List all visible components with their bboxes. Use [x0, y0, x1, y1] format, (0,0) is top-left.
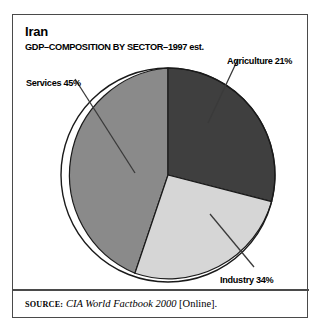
source-note: SOURCE: CIA World Factbook 2000 [Online]…	[25, 298, 217, 309]
slice-label-services: Services 45%	[26, 77, 81, 88]
source-label: SOURCE:	[25, 300, 63, 309]
footer-divider	[13, 289, 309, 291]
source-medium: [Online].	[179, 298, 217, 309]
slice-label-agriculture: Agriculture 21%	[227, 55, 292, 66]
slice-label-industry: Industry 34%	[220, 274, 273, 285]
chart-card: Iran GDP–COMPOSITION BY SECTOR–1997 est.…	[12, 14, 308, 318]
source-work-title: CIA World Factbook 2000	[66, 298, 177, 309]
